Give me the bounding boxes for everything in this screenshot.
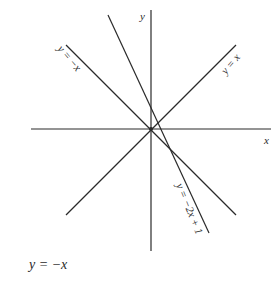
x-axis-label: x — [263, 134, 269, 146]
y-axis-label: y — [139, 10, 145, 22]
origin-point — [149, 127, 153, 131]
caption: y = −x — [29, 257, 67, 273]
coordinate-diagram: y x y = −x y = x y = −2x + 1 — [0, 0, 273, 281]
label-y-eq-neg2x-plus1: y = −2x + 1 — [174, 180, 206, 236]
label-y-eq-x: y = x — [218, 51, 242, 77]
label-y-eq-neg-x: y = −x — [55, 42, 84, 74]
